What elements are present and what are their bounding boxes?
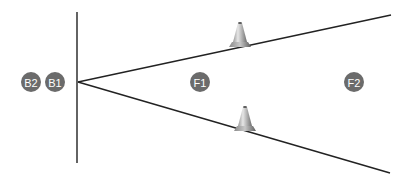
badge-f1: F1 (190, 72, 210, 92)
badge-b1: B1 (45, 72, 65, 92)
badge-f2-label: F2 (348, 77, 361, 89)
upper-ray-line (78, 15, 391, 82)
badge-b2: B2 (21, 72, 41, 92)
diagram-canvas: B2 B1 F1 F2 (0, 0, 411, 186)
badge-f1-label: F1 (194, 77, 207, 89)
lower-ray-line (78, 82, 390, 173)
badge-f2: F2 (344, 72, 364, 92)
traffic-cone-icon (234, 106, 256, 131)
traffic-cone-icon (229, 22, 251, 47)
badge-b2-label: B2 (24, 77, 37, 89)
badge-b1-label: B1 (48, 77, 61, 89)
